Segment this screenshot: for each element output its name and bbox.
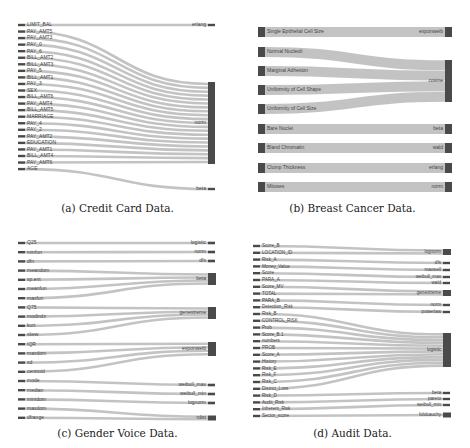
node-label: Q25 — [27, 239, 37, 245]
sankey-node — [208, 393, 215, 396]
sankey-node — [258, 85, 265, 95]
sankey-node — [18, 89, 25, 91]
node-label: Risk_B — [262, 311, 277, 316]
sankey-node — [18, 148, 25, 150]
node-label: Risk_C — [262, 379, 277, 384]
node-label: cosine — [429, 77, 444, 83]
sankey-node — [18, 361, 25, 363]
node-label: Score_B.1 — [262, 332, 284, 337]
caption-breast-cancer: (b) Breast Cancer Data. — [235, 202, 470, 214]
sankey-node — [18, 109, 25, 111]
sankey-node — [18, 315, 25, 317]
sankey-link — [25, 278, 208, 280]
sankey-node — [208, 251, 215, 254]
sankey-node — [253, 313, 260, 315]
sankey-link — [260, 280, 443, 283]
sankey-node — [18, 352, 25, 354]
node-label: exponweib — [182, 345, 206, 351]
caption-gender-voice: (c) Gender Voice Data. — [0, 427, 235, 439]
sankey-node — [18, 63, 25, 65]
sankey-node — [208, 273, 216, 285]
sankey-node — [18, 142, 25, 144]
sankey-link — [260, 348, 443, 349]
node-label: PARA_A — [262, 277, 281, 282]
sankey-node — [253, 326, 260, 328]
sankey-node — [443, 249, 451, 255]
sankey-node — [18, 325, 25, 327]
node-label: beta — [196, 275, 206, 281]
sankey-node — [18, 279, 25, 281]
sankey-gender-voice: Q25minfundfnmeandomsp.entmeanfunmaxfunQ7… — [0, 235, 235, 425]
sankey-node — [258, 163, 265, 173]
node-label: weibull_max — [178, 381, 206, 387]
node-label: norm — [432, 183, 443, 189]
sankey-audit: Score_BLOCATION_IDRisk_AMoney_ValueScore… — [235, 235, 470, 425]
node-label: weibull_max — [416, 274, 442, 279]
sankey-node — [258, 27, 265, 37]
sankey-node — [18, 43, 25, 45]
sankey-node — [443, 262, 450, 264]
node-label: BILL_AMT5 — [27, 106, 54, 112]
sankey-node — [18, 168, 25, 170]
node-label: PAY_6 — [27, 48, 42, 54]
sankey-node — [258, 124, 265, 134]
node-label: maxdom — [27, 405, 46, 411]
sankey-node — [18, 116, 25, 118]
sankey-link — [260, 399, 443, 402]
sankey-node — [443, 276, 450, 278]
node-label: powerlaw — [422, 309, 442, 314]
sankey-node — [258, 47, 265, 57]
node-label: dfs — [199, 257, 206, 263]
node-label: dfrange — [27, 414, 44, 420]
node-label: beta — [196, 185, 206, 191]
panel-gender-voice: Q25minfundfnmeandomsp.entmeanfunmaxfunQ7… — [0, 235, 235, 448]
node-label: norm — [195, 119, 206, 125]
node-label: PAY_2 — [27, 126, 42, 132]
sankey-node — [18, 129, 25, 131]
sankey-node — [208, 24, 215, 26]
node-label: Clump Thickness — [267, 164, 306, 170]
node-label: wald — [433, 144, 444, 150]
node-label: Bare Nuclei — [267, 125, 293, 131]
sankey-node — [253, 258, 260, 260]
sankey-link — [25, 418, 208, 419]
sankey-node — [18, 389, 25, 391]
sankey-node — [18, 76, 25, 78]
node-label: pareto — [428, 396, 441, 401]
sankey-link — [25, 169, 208, 189]
sankey-node — [18, 37, 25, 39]
node-label: rdist — [197, 414, 207, 420]
sankey-node — [253, 306, 260, 308]
node-label: Detection_Risk — [262, 304, 294, 309]
node-label: erlang — [429, 164, 443, 170]
sankey-node — [253, 340, 260, 342]
sankey-node — [443, 269, 450, 271]
node-label: PAY_AMT3 — [27, 34, 53, 40]
node-label: meanfun — [27, 285, 47, 291]
sankey-node — [443, 398, 450, 400]
node-label: PAY_0 — [27, 41, 42, 47]
sankey-node — [18, 260, 25, 262]
sankey-node — [253, 394, 260, 396]
sankey-node — [18, 57, 25, 59]
node-label: meandom — [27, 267, 49, 273]
sankey-node — [253, 360, 260, 362]
sankey-node — [18, 297, 25, 299]
node-label: Bland Chromatin — [267, 144, 304, 150]
node-label: PAY_4 — [27, 120, 42, 126]
sankey-node — [258, 104, 265, 114]
sankey-node — [18, 343, 25, 345]
node-label: beta — [432, 390, 441, 395]
sankey-node — [253, 347, 260, 349]
sankey-node — [18, 417, 25, 419]
sankey-node — [445, 60, 452, 102]
node-label: Uniformity of Cell Size — [267, 105, 316, 111]
node-label: numbers — [262, 338, 281, 343]
sankey-node — [253, 299, 260, 301]
node-label: BILL_AMT4 — [27, 152, 54, 158]
sankey-node — [18, 242, 25, 244]
sankey-node — [253, 415, 260, 417]
node-label: BILL_AMT2 — [27, 54, 54, 60]
sankey-node — [253, 374, 260, 376]
sankey-node — [18, 24, 25, 26]
